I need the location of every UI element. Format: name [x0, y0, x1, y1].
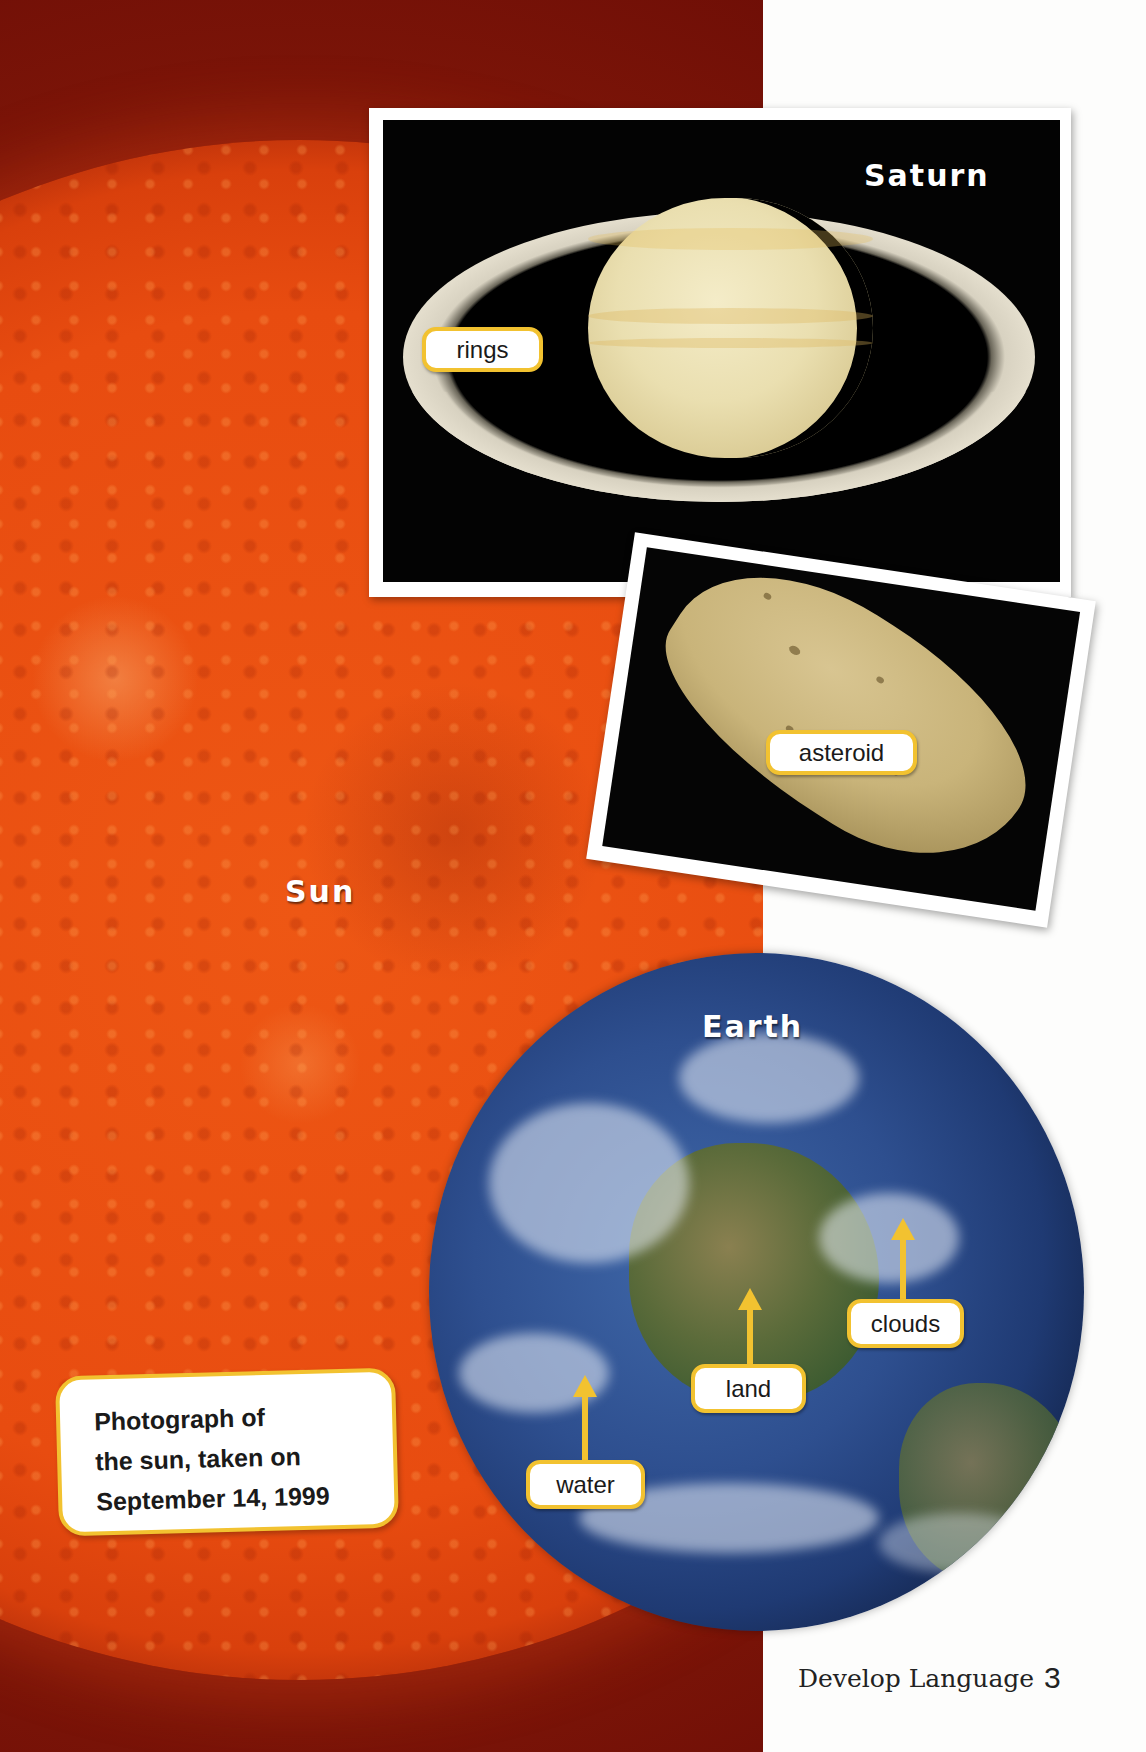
asteroid-photo: [602, 547, 1080, 910]
page-number: 3: [1044, 1661, 1061, 1695]
crater: [875, 675, 885, 684]
planet-band: [588, 338, 873, 348]
land-tag: land: [691, 1364, 806, 1413]
clouds-tag: clouds: [847, 1299, 964, 1348]
planet-band: [588, 308, 873, 324]
crater: [787, 644, 801, 657]
sun-caption: Photograph of the sun, taken on Septembe…: [55, 1368, 399, 1537]
clouds-arrow-icon: [900, 1238, 906, 1300]
crater: [762, 592, 772, 601]
rings-tag: rings: [422, 327, 543, 372]
cloud-band: [819, 1193, 959, 1283]
water-arrow-icon: [582, 1395, 588, 1461]
asteroid-tag: asteroid: [766, 730, 917, 775]
saturn-title: Saturn: [864, 158, 990, 193]
planet-band: [588, 228, 873, 250]
cloud-swirl: [489, 1103, 689, 1263]
asteroid-rock: [629, 547, 1065, 904]
caption-line-3: September 14, 1999: [96, 1474, 395, 1522]
land-arrow-icon: [747, 1308, 753, 1365]
earth-title: Earth: [702, 1009, 803, 1044]
section-label: Develop Language: [798, 1664, 1034, 1693]
water-tag: water: [526, 1460, 645, 1509]
cloud-band: [879, 1513, 1039, 1573]
sun-label: Sun: [285, 874, 355, 909]
cloud-band: [679, 1033, 859, 1123]
